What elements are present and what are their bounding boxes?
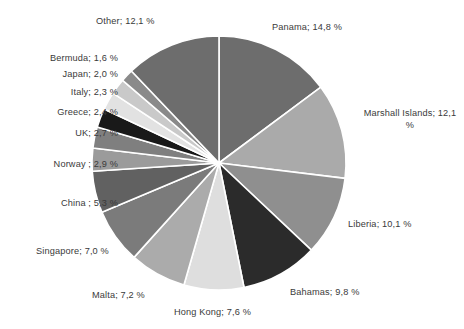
pie-label-china: China ; 5,3 % — [20, 198, 118, 210]
pie-label-malta: Malta; 7,2 % — [92, 290, 174, 302]
pie-label-uk: UK; 2,7 % — [28, 128, 118, 140]
pie-label-bermuda: Bermuda; 1,6 % — [10, 53, 118, 65]
pie-label-greece: Greece; 2,4 % — [10, 107, 118, 119]
pie-label-marshall-islands: Marshall Islands; 12,1 % — [358, 108, 462, 131]
pie-label-other: Other; 12,1 % — [96, 16, 206, 28]
pie-label-norway: Norway ; 2,9 % — [10, 159, 118, 171]
pie-label-japan: Japan; 2,0 % — [22, 69, 118, 81]
pie-label-bahamas: Bahamas; 9,8 % — [290, 287, 390, 299]
pie-label-liberia: Liberia; 10,1 % — [348, 219, 448, 231]
pie-label-hong-kong: Hong Kong; 7,6 % — [174, 307, 284, 319]
pie-label-panama: Panama; 14,8 % — [272, 22, 392, 34]
pie-label-italy: Italy; 2,3 % — [22, 87, 118, 99]
pie-chart: Panama; 14,8 %Marshall Islands; 12,1 %Li… — [0, 0, 464, 329]
pie-label-singapore: Singapore; 7,0 % — [36, 246, 138, 258]
